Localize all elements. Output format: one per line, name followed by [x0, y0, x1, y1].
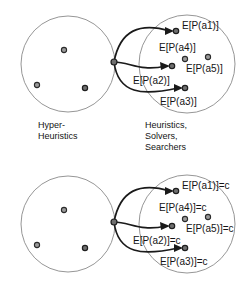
- label-a2-bottom: E[P(a2)]=c: [133, 235, 181, 246]
- label-a3-bottom: E[P(a3)]=c: [160, 256, 208, 267]
- heuristic-node-a5-top: [205, 54, 210, 59]
- heuristic-node-a1-top: [173, 28, 178, 33]
- arrow-curve-to-a2-bottom: [114, 222, 166, 228]
- heuristic-node-a4-top: [182, 56, 187, 61]
- hyper-heuristic-source-node-bottom: [111, 219, 117, 225]
- heuristic-node-a1-bottom: [173, 188, 178, 193]
- top-diagram-svg: E[P(a1)] E[P(a4)] E[P(a5)] E[P(a2)] E[P(…: [0, 0, 250, 118]
- heuristic-node-a4-bottom: [182, 216, 187, 221]
- hyper-heuristic-node-2-bottom: [34, 242, 39, 247]
- label-a5-top: E[P(a5)]: [186, 63, 223, 74]
- left-set-caption: Hyper- Heuristics: [38, 120, 78, 142]
- hyper-heuristic-node-3-top: [82, 85, 87, 90]
- heuristic-node-a3-bottom: [182, 245, 187, 250]
- heuristic-node-a5-bottom: [205, 214, 210, 219]
- arrowhead-a2-top: [160, 62, 170, 70]
- hyper-heuristic-node-3-bottom: [82, 245, 87, 250]
- top-diagram-panel: E[P(a1)] E[P(a4)] E[P(a5)] E[P(a2)] E[P(…: [0, 0, 250, 118]
- label-a4-bottom: E[P(a4)]=c: [159, 202, 207, 213]
- hyper-heuristic-node-1-top: [61, 47, 66, 52]
- left-set-ellipse-top: [21, 16, 115, 112]
- bottom-diagram-svg: E[P(a1)]=c E[P(a4)]=c E[P(a5)]=c E[P(a2)…: [0, 160, 250, 286]
- set-captions-row: Hyper- Heuristics Heuristics, Solvers, S…: [0, 118, 250, 160]
- arrowhead-a1-top: [165, 27, 174, 35]
- arrowhead-a2-bottom: [160, 222, 170, 230]
- label-a5-bottom: E[P(a5)]=c: [186, 223, 234, 234]
- hyper-heuristic-node-2-top: [34, 82, 39, 87]
- label-a1-top: E[P(a1)]: [182, 20, 219, 31]
- label-a4-top: E[P(a4)]: [159, 42, 196, 53]
- label-a2-top: E[P(a2)]: [133, 75, 170, 86]
- heuristic-node-a2-top: [169, 63, 174, 68]
- heuristic-node-a3-top: [182, 85, 187, 90]
- hyper-heuristic-node-1-bottom: [61, 207, 66, 212]
- label-a3-top: E[P(a3)]: [160, 96, 197, 107]
- heuristic-node-a2-bottom: [169, 223, 174, 228]
- hyper-heuristic-source-node-top: [111, 59, 117, 65]
- arrowhead-a3-top: [174, 84, 183, 92]
- arrowhead-a1-bottom: [165, 187, 174, 195]
- bottom-diagram-panel: E[P(a1)]=c E[P(a4)]=c E[P(a5)]=c E[P(a2)…: [0, 160, 250, 286]
- arrow-curve-to-a2-top: [114, 62, 166, 68]
- right-set-caption: Heuristics, Solvers, Searchers: [145, 120, 187, 153]
- label-a1-bottom: E[P(a1)]=c: [182, 180, 230, 191]
- left-set-ellipse-bottom: [21, 176, 115, 272]
